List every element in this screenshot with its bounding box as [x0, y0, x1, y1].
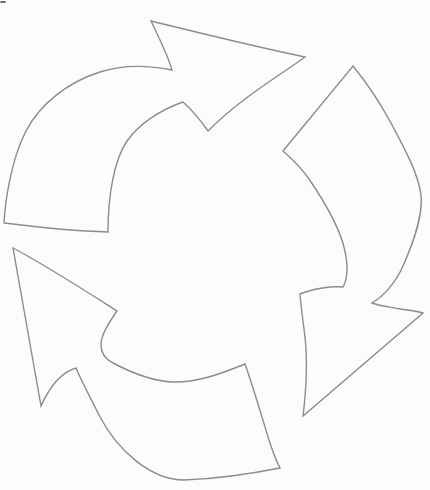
cycle-arrows-drawing [0, 0, 430, 490]
scan-smudge-top-left [0, 1, 6, 3]
top-arrow-pointing-right [4, 21, 305, 232]
bottom-arrow-pointing-upper-left [13, 248, 280, 480]
right-arrow-pointing-down [283, 66, 423, 416]
sketch-page [0, 0, 430, 490]
